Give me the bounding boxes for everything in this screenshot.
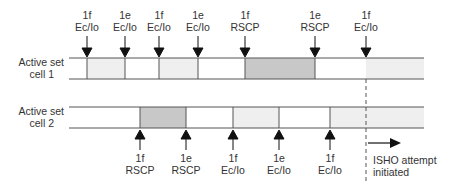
cell2-row-label: Active set cell 2 — [18, 105, 64, 129]
up-arrow-icon — [135, 130, 145, 139]
cell2-segment-ecio-2 — [330, 107, 424, 128]
down-arrow-icon — [154, 48, 164, 57]
svg-text:Active set: Active set — [18, 56, 64, 68]
up-arrow-icon — [274, 130, 284, 139]
measure-label: Ec/Io — [75, 21, 99, 33]
cell2-segment-rscp — [140, 107, 186, 128]
measure-label: Ec/Io — [221, 164, 245, 176]
event-label: 1e — [119, 9, 131, 21]
down-arrow-icon — [120, 48, 130, 57]
down-arrow-icon — [310, 48, 320, 57]
svg-text:cell 1: cell 1 — [29, 68, 54, 80]
down-arrow-icon — [193, 48, 203, 57]
measure-label: Ec/Io — [267, 164, 291, 176]
measure-label: Ec/Io — [113, 21, 137, 33]
event-label: 1f — [155, 9, 164, 21]
event-label: 1f — [326, 152, 335, 164]
down-arrow-icon — [240, 48, 250, 57]
event-label: 1f — [83, 9, 92, 21]
event-label: 1f — [241, 9, 250, 21]
down-arrow-icon — [82, 48, 92, 57]
up-arrow-icon — [181, 130, 191, 139]
measure-label: RSCP — [125, 164, 154, 176]
svg-text:Active set: Active set — [18, 105, 64, 117]
event-label: 1e — [192, 9, 204, 21]
cell1-event-arrows — [82, 36, 371, 57]
event-label: 1f — [362, 9, 371, 21]
right-arrow-head-icon — [390, 138, 401, 148]
measure-label: RSCP — [230, 21, 259, 33]
cell1-band — [69, 58, 424, 79]
isho-label-line2: initiated — [373, 166, 409, 178]
cell2-band — [69, 107, 424, 128]
measure-label: RSCP — [300, 21, 329, 33]
handover-timeline-diagram: 1f Ec/Io 1e Ec/Io 1f Ec/Io 1e Ec/Io 1f R… — [0, 0, 452, 184]
event-label: 1e — [180, 152, 192, 164]
event-label: 1e — [309, 9, 321, 21]
event-label: 1f — [229, 152, 238, 164]
cell1-segment-ecio-3 — [366, 58, 424, 79]
cell2-event-labels: 1f RSCP 1e RSCP 1f Ec/Io 1e Ec/Io 1f Ec/… — [125, 152, 342, 176]
measure-label: RSCP — [171, 164, 200, 176]
measure-label: Ec/Io — [318, 164, 342, 176]
cell1-segment-ecio-1 — [87, 58, 125, 79]
cell1-segment-rscp — [245, 58, 315, 79]
isho-marker: ISHO attempt initiated — [366, 79, 437, 184]
measure-label: Ec/Io — [147, 21, 171, 33]
cell1-row-label: Active set cell 1 — [18, 56, 64, 80]
cell1-event-labels: 1f Ec/Io 1e Ec/Io 1f Ec/Io 1e Ec/Io 1f R… — [75, 9, 378, 33]
up-arrow-icon — [325, 130, 335, 139]
measure-label: Ec/Io — [186, 21, 210, 33]
event-label: 1f — [136, 152, 145, 164]
measure-label: Ec/Io — [354, 21, 378, 33]
cell2-segment-ecio-1 — [233, 107, 279, 128]
up-arrow-icon — [228, 130, 238, 139]
svg-text:cell 2: cell 2 — [29, 117, 54, 129]
isho-label-line1: ISHO attempt — [373, 154, 437, 166]
cell1-segment-ecio-2 — [159, 58, 198, 79]
down-arrow-icon — [361, 48, 371, 57]
event-label: 1e — [273, 152, 285, 164]
cell2-event-arrows — [135, 130, 335, 150]
